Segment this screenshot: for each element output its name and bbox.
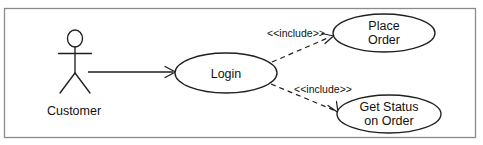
use-case-place-order-label-line2: Order: [368, 33, 400, 47]
actor-leg-right: [75, 73, 90, 93]
actor-leg-left: [60, 73, 75, 93]
include-arrowhead-icon: [328, 102, 338, 113]
actor-head: [68, 30, 83, 47]
actor-customer-label: Customer: [47, 104, 101, 118]
stick-figure-actor-icon: [59, 30, 92, 93]
include-stereotype-label: <<include>>: [294, 83, 352, 95]
actor-customer[interactable]: Customer: [47, 30, 101, 118]
use-case-place-order[interactable]: Place Order: [333, 14, 435, 52]
use-case-login[interactable]: Login: [175, 53, 277, 93]
use-case-place-order-label-line1: Place: [368, 19, 399, 33]
use-case-get-status-label-line2: on Order: [364, 114, 413, 128]
association-customer-login[interactable]: [88, 67, 176, 78]
include-stereotype-label: <<include>>: [267, 27, 325, 39]
use-case-login-label: Login: [211, 67, 242, 81]
use-case-get-status-on-order[interactable]: Get Status on Order: [337, 95, 441, 133]
use-case-diagram: Customer Login <<include>> Place Order: [0, 0, 483, 145]
include-login-place-order[interactable]: <<include>>: [267, 27, 333, 62]
use-case-get-status-label-line1: Get Status: [359, 100, 418, 114]
diagram-canvas: Customer Login <<include>> Place Order: [0, 0, 483, 145]
include-dashed-line: [272, 37, 330, 62]
